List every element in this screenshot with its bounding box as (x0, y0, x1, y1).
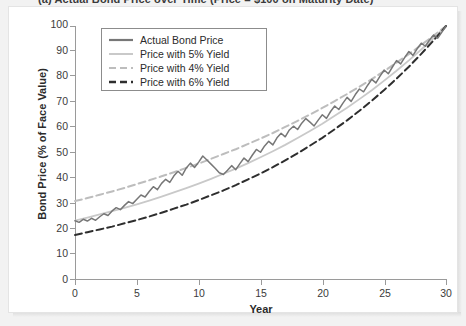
legend-label: Price with 5% Yield (140, 48, 229, 60)
legend-item-price-6-yield: Price with 6% Yield (108, 75, 260, 89)
figure-title: (a) Actual Bond Price over Time (Price =… (38, 0, 373, 5)
legend-label: Price with 4% Yield (140, 62, 229, 74)
legend-swatch-solid-gray (108, 34, 134, 46)
legend-swatch-dashed-black (108, 76, 134, 88)
legend-swatch-solid-lightgray (108, 48, 134, 60)
legend-label: Price with 6% Yield (140, 76, 229, 88)
chart-card: Bond Price (% of Face Value) 0 10 20 30 … (9, 7, 457, 312)
figure-root: (a) Actual Bond Price over Time (Price =… (0, 0, 466, 326)
legend-label: Actual Bond Price (140, 34, 223, 46)
legend-item-price-5-yield: Price with 5% Yield (108, 47, 260, 61)
card-shadow-right (457, 11, 462, 316)
figure-title-strip: (a) Actual Bond Price over Time (Price =… (0, 0, 466, 7)
legend-item-actual-bond-price: Actual Bond Price (108, 33, 260, 47)
legend-swatch-dashed-lightgray (108, 62, 134, 74)
chart-legend: Actual Bond Price Price with 5% Yield Pr… (101, 28, 267, 91)
legend-item-price-4-yield: Price with 4% Yield (108, 61, 260, 75)
